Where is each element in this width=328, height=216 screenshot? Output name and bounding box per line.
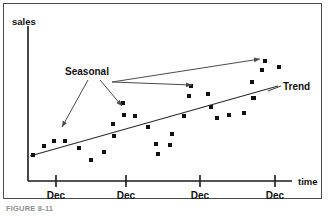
x-axis-ticks: DecDecDecDec: [47, 175, 285, 201]
figure-caption: FIGURE 8-11: [6, 204, 53, 213]
x-axis-tick-label: Dec: [47, 190, 66, 201]
seasonal-annotation-arrow: [112, 59, 260, 82]
data-point: [63, 139, 67, 143]
data-point: [102, 150, 106, 154]
data-point: [250, 80, 254, 84]
data-point: [251, 96, 255, 100]
data-point: [156, 152, 160, 156]
x-axis-tick-label: Dec: [117, 190, 136, 201]
trend-label: Trend: [283, 81, 310, 92]
figure-container: DecDecDecDec sales time Trend Seasonal F…: [0, 0, 328, 216]
x-axis-label: time: [298, 176, 318, 187]
x-axis-tick-label: Dec: [191, 190, 210, 201]
data-point: [227, 113, 231, 117]
data-point: [182, 114, 186, 118]
data-point: [206, 92, 210, 96]
seasonal-annotation-arrow: [100, 80, 122, 106]
chart-axes: [28, 26, 292, 181]
data-point: [122, 113, 126, 117]
data-point: [260, 68, 264, 72]
data-point: [133, 114, 137, 118]
data-point: [89, 158, 93, 162]
seasonal-annotation-arrow: [62, 80, 88, 127]
data-point: [263, 59, 267, 63]
x-axis-tick-label: Dec: [266, 190, 285, 201]
data-point: [154, 142, 158, 146]
data-point: [170, 132, 174, 136]
data-point: [168, 143, 172, 147]
data-point: [215, 116, 219, 120]
data-point: [111, 122, 115, 126]
data-point: [42, 144, 46, 148]
data-point: [146, 125, 150, 129]
seasonal-annotation-arrow: [112, 82, 192, 85]
data-point: [31, 153, 35, 157]
data-point: [209, 105, 213, 109]
data-point: [242, 111, 246, 115]
data-point: [52, 139, 56, 143]
scatter-chart: DecDecDecDec sales time Trend Seasonal: [0, 0, 328, 216]
data-point: [112, 134, 116, 138]
seasonal-label: Seasonal: [65, 66, 109, 77]
data-point: [187, 94, 191, 98]
chart-text-labels: sales time Trend Seasonal: [12, 16, 318, 187]
data-point: [121, 101, 125, 105]
y-axis-label: sales: [12, 16, 36, 27]
data-point: [277, 65, 281, 69]
data-point: [77, 146, 81, 150]
